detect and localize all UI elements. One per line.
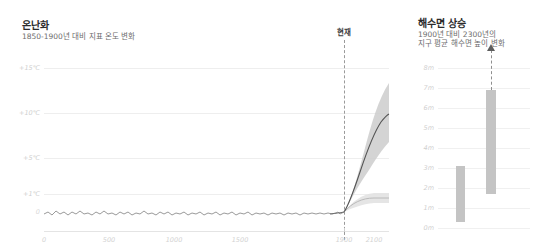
sea-ytick-5m: 5m xyxy=(424,124,434,132)
high-emissions-band xyxy=(344,83,389,212)
sea-gridline-4m xyxy=(438,148,530,149)
ytick-label-10: +10℃ xyxy=(19,109,40,117)
sea-ytick-1m: 1m xyxy=(424,204,434,212)
xtick-label-1900: 1900 xyxy=(336,236,353,244)
sea-gridline-6m xyxy=(438,108,530,109)
warming-plot-area: +15℃ +10℃ +5℃ +1℃ 0 현재 0 500 1000 15 xyxy=(44,62,389,232)
xtick-label-0: 0 xyxy=(42,236,46,244)
ytick-label-0: 0 xyxy=(36,208,40,216)
warming-chart-panel: 온난화 1850-1900년 대비 지표 온도 변화 +15℃ +10℃ +5℃… xyxy=(0,0,400,250)
present-label: 현재 xyxy=(337,26,351,37)
xtick-label-2100: 2100 xyxy=(366,236,383,244)
bar-low-emissions xyxy=(456,166,465,222)
sea-gridline-8m xyxy=(438,68,530,69)
ytick-label-1: +1℃ xyxy=(23,190,40,198)
xtick-label-500: 500 xyxy=(103,236,115,244)
sea-gridline-3m xyxy=(438,168,530,169)
sea-ytick-8m: 8m xyxy=(424,64,434,72)
present-dashed-line xyxy=(344,40,345,240)
sea-ytick-7m: 7m xyxy=(424,84,434,92)
sea-ytick-3m: 3m xyxy=(424,164,434,172)
xtick-label-1000: 1000 xyxy=(166,236,183,244)
ytick-label-15: +15℃ xyxy=(19,64,40,72)
page-subtitle: 1850-1900년 대비 지표 온도 변화 xyxy=(22,30,135,41)
arrow-up-icon xyxy=(487,44,495,51)
sea-level-plot-area: 8m 7m 6m 5m 4m 3m 2m 1m 0m xyxy=(438,62,530,232)
warming-series-svg xyxy=(44,62,389,232)
sea-ytick-6m: 6m xyxy=(424,104,434,112)
sea-gridline-5m xyxy=(438,128,530,129)
x-axis-line xyxy=(44,231,389,232)
sea-gridline-7m xyxy=(438,88,530,89)
sea-level-arrow-line xyxy=(491,50,492,90)
sea-ytick-2m: 2m xyxy=(424,184,434,192)
sea-level-chart-panel: 해수면 상승 1900년 대비 2300년의 지구 평균 해수면 높이 변화 8… xyxy=(400,0,545,250)
sea-gridline-0m xyxy=(438,228,530,229)
sea-gridline-1m xyxy=(438,208,530,209)
sea-ytick-4m: 4m xyxy=(424,144,434,152)
historical-reconstruction-line xyxy=(44,211,344,215)
xtick-label-1500: 1500 xyxy=(232,236,249,244)
low-emissions-band xyxy=(344,193,389,212)
sea-ytick-0m: 0m xyxy=(424,224,434,232)
ytick-label-5: +5℃ xyxy=(23,154,40,162)
sea-gridline-2m xyxy=(438,188,530,189)
bar-high-emissions xyxy=(486,90,496,194)
xtick-mark-1900 xyxy=(344,228,345,232)
